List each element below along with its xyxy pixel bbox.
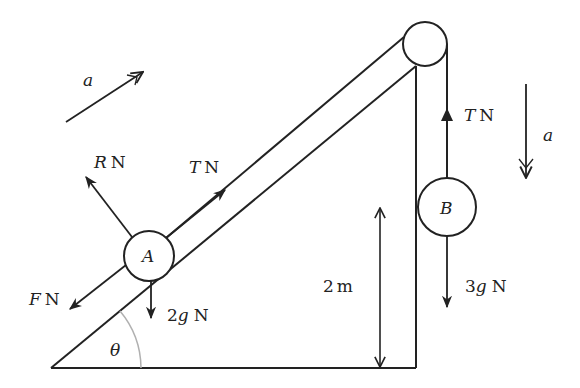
particle-a-label: A [140, 246, 154, 266]
height-label: 2m [323, 276, 353, 296]
friction-label: FN [28, 289, 60, 309]
tension-vertical-head [441, 108, 453, 121]
angle-arc [120, 311, 141, 368]
weight-b-label: 3gN [465, 276, 507, 296]
weight-a-label: 2gN [167, 305, 209, 325]
accel-incline-label: a [83, 70, 93, 90]
reaction-label: RN [93, 152, 126, 172]
accel-vertical-label: a [543, 125, 553, 145]
particle-b-label: B [439, 198, 453, 218]
pulley-diagram: θ A B a RN TN FN 2gN TN 3gN a 2m [0, 0, 580, 388]
angle-label: θ [110, 340, 120, 360]
incline-surface [51, 66, 416, 368]
accel-incline-arrow [66, 72, 143, 122]
pulley [403, 22, 447, 66]
tension-vertical-label: TN [464, 105, 494, 125]
reaction-arrow [86, 177, 132, 237]
friction-arrow [70, 265, 126, 309]
tension-incline-label: TN [189, 157, 219, 177]
